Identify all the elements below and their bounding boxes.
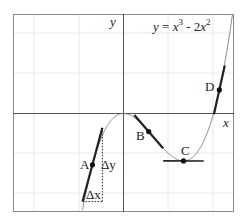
- label-B: B: [136, 129, 145, 142]
- y-axis-label: y: [110, 15, 116, 28]
- delta-y-label: Δy: [101, 158, 116, 171]
- point-B: [146, 129, 151, 134]
- curve-points: [90, 87, 222, 167]
- label-C: C: [181, 144, 190, 157]
- tangent-lines: [83, 65, 225, 201]
- x-axis-label: x: [223, 116, 229, 129]
- cubic-curve: [83, 15, 233, 210]
- fn-eq: =: [159, 19, 173, 34]
- delta-x-label: Δx: [86, 188, 101, 201]
- plot-canvas: [0, 0, 247, 224]
- point-A: [90, 162, 95, 167]
- point-C: [181, 158, 186, 163]
- fn-exp2: 2: [206, 17, 211, 27]
- label-D: D: [205, 80, 214, 93]
- point-D: [217, 87, 222, 92]
- label-A: A: [80, 158, 89, 171]
- fn-minus: - 2: [183, 19, 200, 34]
- function-label: y = x3 - 2x2: [153, 20, 211, 33]
- cubic-function-diagram: y x y = x3 - 2x2 A B C D Δy Δx: [0, 0, 247, 224]
